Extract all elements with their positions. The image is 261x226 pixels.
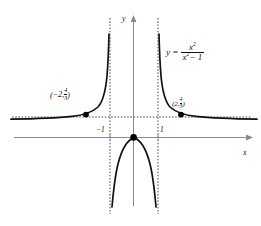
point-left-x-value: −2, xyxy=(53,90,64,99)
x-axis-arrowhead xyxy=(246,135,253,141)
equation-fraction: x2 x2− 1 xyxy=(181,43,205,63)
equation-label: y = x2 x2− 1 xyxy=(166,43,204,63)
denominator-remainder: − 1 xyxy=(189,52,202,62)
point-right-paren-close: ) xyxy=(182,100,184,108)
graph-figure: x y −1 1 (−2, 4 3 ) (2, 4 3 ) y = x2 x2−… xyxy=(0,0,261,226)
coordinate-plot xyxy=(0,0,261,226)
marked-point-left xyxy=(83,112,89,118)
point-label-left: (−2, 4 3 ) xyxy=(50,87,70,101)
x-axis-label: x xyxy=(243,148,247,157)
y-axis-label: y xyxy=(122,14,126,23)
y-axis-arrowhead xyxy=(131,15,137,22)
x-tick-label-positive-one: 1 xyxy=(160,125,164,134)
equation-denominator: x2− 1 xyxy=(181,52,205,62)
equation-left-side: y = xyxy=(166,47,178,57)
marked-point-right xyxy=(178,112,184,118)
point-left-paren-close: ) xyxy=(67,91,70,100)
marked-point-origin xyxy=(130,134,137,141)
point-label-right: (2, 4 3 ) xyxy=(172,97,185,109)
numerator-exponent: 2 xyxy=(193,41,196,47)
x-tick-label-negative-one: −1 xyxy=(96,125,105,134)
curve-left-branch xyxy=(11,34,109,119)
